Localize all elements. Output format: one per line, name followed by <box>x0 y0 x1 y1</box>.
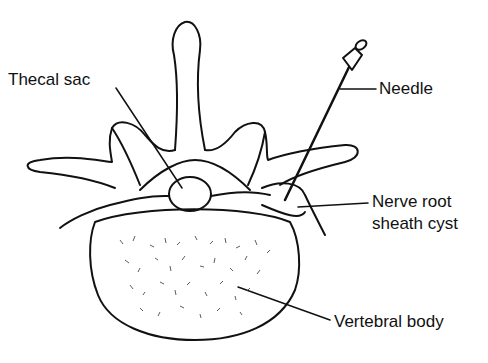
vertebra-diagram: Thecal sac Needle Nerve root sheath cyst… <box>0 0 488 363</box>
label-nerve-root-line1: Nerve root <box>372 192 451 212</box>
label-thecal-sac: Thecal sac <box>8 70 90 90</box>
label-nerve-root-line2: sheath cyst <box>372 214 458 234</box>
spinous-process <box>173 22 205 150</box>
right-transverse-process <box>205 123 358 185</box>
label-vertebral-body: Vertebral body <box>334 312 444 332</box>
vertebral-body-leader <box>238 287 330 320</box>
needle-shape <box>285 38 368 200</box>
label-needle: Needle <box>379 79 433 99</box>
thecal-sac-leader <box>116 88 182 188</box>
vertebra-illustration <box>0 0 488 363</box>
vertebral-body-shape <box>90 209 299 340</box>
thecal-sac-shape <box>169 177 211 211</box>
cancellous-bone-texture <box>120 236 270 318</box>
